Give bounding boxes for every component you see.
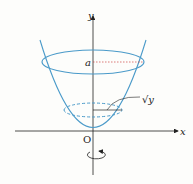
paraboloid-figure: a √y y x O [0,0,193,184]
label-a: a [85,57,91,68]
label-x: x [180,126,186,137]
diagram: a √y y x O [0,0,193,184]
rotation-icon [87,151,105,159]
label-sqrt-y: √y [142,94,154,105]
label-origin: O [83,134,91,145]
label-y: y [87,10,94,21]
